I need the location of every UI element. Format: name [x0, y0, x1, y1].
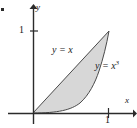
curve-label-cubic-base: y = x	[95, 60, 116, 71]
curve-label-y-equals-x-cubed: y = x3	[95, 60, 119, 71]
x-axis-label: x	[125, 96, 129, 105]
curve-label-cubic-exponent: 3	[116, 59, 119, 66]
y-axis-label: y	[36, 3, 40, 12]
x-axis-tick-label-1: 1	[105, 115, 110, 125]
x-axis-arrowhead	[133, 110, 137, 118]
curve-label-y-equals-x: y = x	[52, 45, 73, 55]
y-axis-tick-label-1: 1	[19, 25, 24, 35]
math-figure: y x 1 1 y = x y = x3	[0, 0, 137, 128]
